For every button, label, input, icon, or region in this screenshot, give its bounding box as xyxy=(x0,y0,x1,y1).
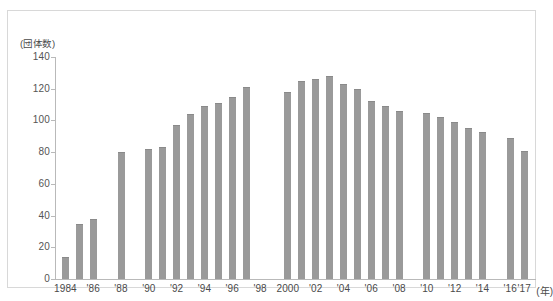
y-axis-tick: 0 xyxy=(55,279,56,280)
bar xyxy=(340,84,347,279)
y-axis-tick-mark xyxy=(51,279,56,280)
bar xyxy=(465,128,472,279)
bar xyxy=(368,101,375,279)
bar xyxy=(145,149,152,279)
y-axis-tick-label: 80 xyxy=(38,146,50,157)
bar xyxy=(243,87,250,279)
bar xyxy=(354,89,361,279)
bar xyxy=(187,114,194,279)
y-axis-tick-label: 60 xyxy=(38,178,50,189)
y-axis-tick-label: 0 xyxy=(44,273,50,284)
figure-caption xyxy=(0,292,544,301)
y-axis-tick-label: 140 xyxy=(33,51,50,62)
bar xyxy=(173,125,180,279)
bar xyxy=(90,219,97,279)
bar xyxy=(201,106,208,279)
bar xyxy=(507,138,514,279)
bar xyxy=(76,224,83,280)
bar xyxy=(451,122,458,279)
bar xyxy=(215,103,222,279)
bar xyxy=(396,111,403,279)
bar xyxy=(298,81,305,279)
y-axis-tick-label: 120 xyxy=(33,83,50,94)
y-axis-unit-label: (団体数) xyxy=(20,36,55,50)
bar xyxy=(312,79,319,279)
bar xyxy=(479,132,486,279)
chart-frame: (団体数) 020406080100120140 1984'86'88'90'9… xyxy=(7,10,536,288)
bar xyxy=(423,113,430,280)
y-axis-tick-label: 100 xyxy=(33,114,50,125)
x-axis-line xyxy=(55,279,536,280)
bar-series xyxy=(55,57,536,279)
bar xyxy=(382,106,389,279)
bar xyxy=(437,117,444,279)
bar xyxy=(62,257,69,279)
bar xyxy=(326,76,333,279)
bar xyxy=(229,97,236,279)
bar xyxy=(159,147,166,279)
y-axis-tick-label: 40 xyxy=(38,210,50,221)
y-axis-tick-label: 20 xyxy=(38,241,50,252)
bar xyxy=(521,151,528,279)
bar xyxy=(118,152,125,279)
bar xyxy=(284,92,291,279)
